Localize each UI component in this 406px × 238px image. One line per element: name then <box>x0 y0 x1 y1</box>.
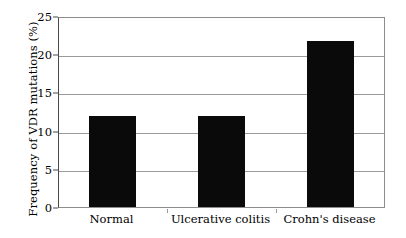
bar-series <box>59 18 384 207</box>
x-tick-label-ulcerative-colitis: Ulcerative colitis <box>171 212 270 226</box>
bar-crohns-disease <box>307 41 354 207</box>
bar-ulcerative-colitis <box>198 116 245 207</box>
plot-area <box>58 17 385 208</box>
y-tick-label: 5 <box>12 163 52 177</box>
y-tick-label: 15 <box>12 86 52 100</box>
bar-chart-figure: Frequency of VDR mutations (%) 0 5 10 15… <box>0 0 406 238</box>
y-tick-label: 20 <box>12 48 52 62</box>
x-tick-label-normal: Normal <box>90 212 134 226</box>
y-tick-label: 25 <box>12 10 52 24</box>
x-axis-separator-tick <box>167 209 168 213</box>
x-tick-label-crohns-disease: Crohn's disease <box>283 212 375 226</box>
y-tick-label: 0 <box>12 201 52 215</box>
x-axis-separator-tick <box>276 209 277 213</box>
y-tick-label: 10 <box>12 125 52 139</box>
bar-normal <box>89 116 136 207</box>
